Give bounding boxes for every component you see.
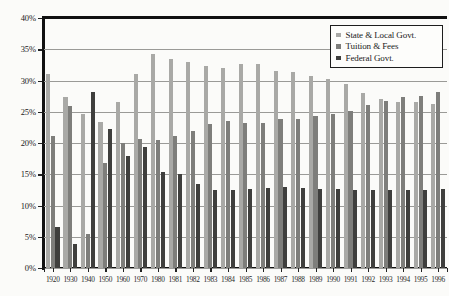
x-axis-tick xyxy=(316,268,317,272)
bar-group xyxy=(219,18,237,268)
x-axis-label: 1993 xyxy=(377,275,395,291)
bar xyxy=(134,74,138,268)
bar xyxy=(406,190,410,268)
x-axis-label: 1994 xyxy=(394,275,412,291)
bar xyxy=(161,172,165,268)
x-axis-label: 1983 xyxy=(202,275,220,291)
y-axis-label: 5% xyxy=(0,232,36,242)
x-axis-tick xyxy=(447,268,448,272)
bar xyxy=(379,99,383,268)
bar xyxy=(121,143,125,268)
bar xyxy=(353,190,357,268)
bar xyxy=(396,102,400,268)
bar xyxy=(414,102,418,268)
bar-group xyxy=(132,18,150,268)
bar xyxy=(116,102,120,268)
x-axis-tick xyxy=(88,268,89,272)
x-axis-label: 1960 xyxy=(114,275,132,291)
y-axis-tick xyxy=(38,112,42,113)
bar xyxy=(68,106,72,268)
bar xyxy=(196,184,200,268)
x-axis-label: 1950 xyxy=(97,275,115,291)
bar xyxy=(98,122,102,268)
legend-item-state-local: State & Local Govt. xyxy=(336,29,438,41)
bar xyxy=(173,136,177,268)
bar xyxy=(169,59,173,268)
bar xyxy=(204,66,208,269)
bar xyxy=(278,119,282,268)
x-axis-label: 1995 xyxy=(412,275,430,291)
y-axis-label: 15% xyxy=(0,169,36,179)
x-axis-label: 1940 xyxy=(79,275,97,291)
x-axis-label: 1992 xyxy=(359,275,377,291)
bar xyxy=(436,92,440,268)
x-axis-tick xyxy=(210,268,211,272)
bar-group xyxy=(167,18,185,268)
bar xyxy=(336,189,340,268)
y-axis-label: 20% xyxy=(0,138,36,148)
x-axis-tick xyxy=(333,268,334,272)
x-axis-tick xyxy=(298,268,299,272)
bar xyxy=(208,124,212,268)
bar-group xyxy=(272,18,290,268)
x-axis-tick xyxy=(386,268,387,272)
bar xyxy=(231,190,235,268)
x-axis-label: 1987 xyxy=(272,275,290,291)
bar xyxy=(309,76,313,269)
bar-group xyxy=(97,18,115,268)
bar xyxy=(103,163,107,268)
bar xyxy=(344,84,348,268)
bar-group xyxy=(254,18,272,268)
bar-group xyxy=(44,18,62,268)
x-axis-tick xyxy=(228,268,229,272)
y-axis-label: 25% xyxy=(0,107,36,117)
bar xyxy=(243,123,247,268)
x-axis-tick xyxy=(175,268,176,272)
x-axis-tick xyxy=(263,268,264,272)
bar xyxy=(296,119,300,268)
y-axis-label: 35% xyxy=(0,44,36,54)
bar xyxy=(291,72,295,268)
y-axis-tick xyxy=(38,49,42,50)
bar xyxy=(213,190,217,268)
bar xyxy=(401,97,405,268)
bar-group xyxy=(202,18,220,268)
bar xyxy=(73,244,77,268)
bar-group xyxy=(149,18,167,268)
x-axis-label: 1989 xyxy=(307,275,325,291)
y-axis-tick xyxy=(38,81,42,82)
x-axis-label: 1984 xyxy=(219,275,237,291)
x-axis-tick xyxy=(246,268,247,272)
legend-label-tuition-fees: Tuition & Fees xyxy=(346,41,399,51)
bar-group xyxy=(307,18,325,268)
bar-group xyxy=(289,18,307,268)
bar xyxy=(191,131,195,269)
x-axis-label: 1970 xyxy=(132,275,150,291)
bar xyxy=(441,189,445,268)
bar xyxy=(143,147,147,268)
legend-label-federal: Federal Govt. xyxy=(346,53,394,63)
bar-group xyxy=(237,18,255,268)
bar xyxy=(55,227,59,268)
bar xyxy=(266,188,270,268)
chart-legend: State & Local Govt. Tuition & Fees Feder… xyxy=(330,25,443,68)
bar xyxy=(81,114,85,268)
x-axis-label: 1988 xyxy=(289,275,307,291)
bar-chart: 40%35%30%25%20%15%10%5%0% 19201930194019… xyxy=(0,0,449,296)
bar xyxy=(239,64,243,268)
bar xyxy=(178,174,182,268)
x-axis-label: 1986 xyxy=(254,275,272,291)
x-axis-labels: 1920193019401950196019701980198119821983… xyxy=(44,275,447,291)
x-axis-tick xyxy=(158,268,159,272)
x-axis-label: 1990 xyxy=(324,275,342,291)
x-axis-label: 1996 xyxy=(429,275,447,291)
y-axis-tick xyxy=(38,18,42,19)
x-axis-tick xyxy=(281,268,282,272)
x-axis-label: 1920 xyxy=(44,275,62,291)
bar xyxy=(419,96,423,268)
bar xyxy=(91,92,95,268)
legend-item-tuition-fees: Tuition & Fees xyxy=(336,41,438,53)
bar xyxy=(126,156,130,269)
bar xyxy=(138,139,142,268)
legend-swatch-federal-icon xyxy=(336,56,341,61)
